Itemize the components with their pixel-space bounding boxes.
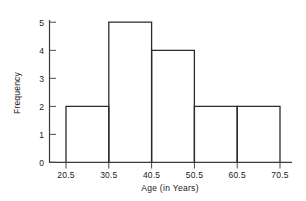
x-tick-label-70-5: 70.5	[271, 170, 288, 180]
bar-50-5-to-60-5	[194, 106, 237, 162]
x-tick-label-20-5: 20.5	[57, 170, 74, 180]
x-tick-label-50-5: 50.5	[186, 170, 203, 180]
histogram-bars	[66, 22, 280, 162]
x-tick-label-60-5: 60.5	[229, 170, 246, 180]
bar-20-5-to-30-5	[66, 106, 109, 162]
y-tick-label-4: 4	[39, 46, 44, 56]
x-tick-labels: 20.5 30.5 40.5 50.5 60.5 70.5	[57, 170, 288, 180]
bar-40-5-to-50-5	[152, 50, 195, 162]
y-tick-marks	[50, 22, 57, 162]
histogram-figure: 5 4 3 2 1 0	[0, 0, 306, 201]
plot-area: 5 4 3 2 1 0	[12, 18, 292, 194]
y-axis-title: Frequency	[12, 71, 22, 114]
chart-canvas: 5 4 3 2 1 0	[0, 0, 306, 201]
y-tick-label-1: 1	[39, 130, 44, 140]
y-tick-label-5: 5	[39, 18, 44, 28]
y-tick-label-2: 2	[39, 102, 44, 112]
y-tick-labels: 5 4 3 2 1 0	[39, 18, 44, 168]
x-axis-title: Age (in Years)	[141, 183, 199, 193]
x-tick-label-40-5: 40.5	[143, 170, 160, 180]
bar-30-5-to-40-5	[109, 22, 152, 162]
y-tick-label-0: 0	[39, 158, 44, 168]
x-tick-marks	[66, 162, 280, 168]
x-tick-label-30-5: 30.5	[100, 170, 117, 180]
bar-60-5-to-70-5	[237, 106, 280, 162]
y-tick-label-3: 3	[39, 74, 44, 84]
